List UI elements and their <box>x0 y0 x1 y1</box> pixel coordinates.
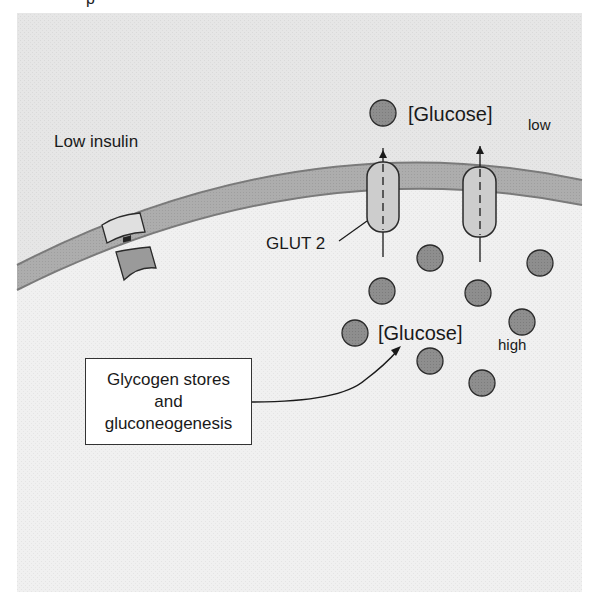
glucose-molecule <box>417 348 443 374</box>
glucose-low-label: [Glucose] <box>408 103 492 125</box>
glucose-molecule <box>509 309 535 335</box>
glucose-molecule <box>527 250 553 276</box>
glucose-molecule <box>469 370 495 396</box>
glucose-molecule <box>417 245 443 271</box>
glucose-molecule <box>342 320 368 346</box>
box-line-2: and <box>154 391 182 413</box>
glut2-label: GLUT 2 <box>266 234 325 253</box>
glucose-high-subscript: high <box>498 336 526 353</box>
glucose-low-subscript: low <box>528 116 551 133</box>
low-insulin-label: Low insulin <box>54 132 138 151</box>
glycogen-gluconeogenesis-box: Glycogen stores and gluconeogenesis <box>85 358 252 445</box>
glucose-molecule <box>465 280 491 306</box>
box-line-1: Glycogen stores <box>107 369 230 391</box>
diagram-canvas: Low insulin GLUT 2 [Glucose] low [Glucos… <box>0 0 597 601</box>
glucose-high-label: [Glucose] <box>378 322 462 344</box>
glucose-molecule <box>369 278 395 304</box>
box-line-3: gluconeogenesis <box>105 413 233 435</box>
glucose-molecule-outside <box>370 100 396 126</box>
